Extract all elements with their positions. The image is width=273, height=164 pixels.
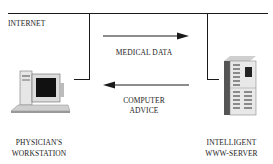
workstation-label-line2: WORKSTATION bbox=[0, 148, 78, 159]
arrow-right-icon bbox=[101, 31, 191, 41]
computer-advice-label: COMPUTER ADVICE bbox=[104, 96, 184, 116]
internet-backbone bbox=[8, 13, 268, 14]
server-label: INTELLIGENT WWW-SERVER bbox=[190, 137, 273, 159]
tower-server-icon bbox=[222, 55, 258, 117]
computer-advice-line2: ADVICE bbox=[104, 106, 184, 116]
arrow-left-icon bbox=[101, 80, 191, 90]
workstation-label-line1: PHYSICIAN'S bbox=[0, 137, 78, 148]
server-label-line2: WWW-SERVER bbox=[190, 148, 273, 159]
medical-data-label: MEDICAL DATA bbox=[104, 48, 184, 57]
workstation-drop-line bbox=[89, 13, 90, 80]
server-label-line1: INTELLIGENT bbox=[190, 137, 273, 148]
desktop-computer-icon bbox=[8, 69, 70, 117]
computer-advice-line1: COMPUTER bbox=[104, 96, 184, 106]
internet-label: INTERNET bbox=[8, 19, 45, 28]
workstation-label: PHYSICIAN'S WORKSTATION bbox=[0, 137, 78, 159]
server-drop-line bbox=[207, 13, 208, 79]
server-connector bbox=[207, 79, 219, 80]
workstation-connector bbox=[74, 79, 90, 80]
